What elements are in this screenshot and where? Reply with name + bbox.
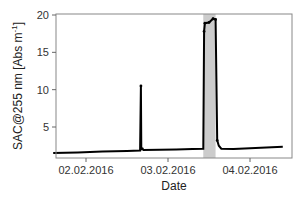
y-tick-label: 10	[37, 84, 49, 96]
y-axis: 5101520	[37, 9, 56, 133]
x-tick-label: 04.02.2016	[222, 164, 277, 176]
y-axis-title: SAC@255 nm [Abs m-1]	[10, 22, 25, 150]
x-axis: 02.02.201603.02.201604.02.2016	[58, 158, 277, 176]
x-tick-label: 03.02.2016	[140, 164, 195, 176]
data-point	[212, 17, 215, 20]
y-tick-label: 15	[37, 46, 49, 58]
y-tick-label: 5	[43, 121, 49, 133]
data-point	[214, 18, 217, 21]
y-tick-label: 20	[37, 9, 49, 21]
data-series-line	[53, 19, 283, 153]
data-point	[140, 85, 143, 88]
x-axis-title: Date	[161, 179, 187, 193]
chart-svg: 5101520 02.02.201603.02.201604.02.2016 D…	[0, 0, 306, 197]
x-tick-label: 02.02.2016	[58, 164, 113, 176]
plot-frame	[56, 14, 292, 158]
data-point	[203, 30, 206, 33]
shaded-band	[203, 14, 215, 158]
data-point	[204, 22, 207, 25]
data-point	[208, 21, 211, 24]
data-point	[216, 139, 219, 142]
